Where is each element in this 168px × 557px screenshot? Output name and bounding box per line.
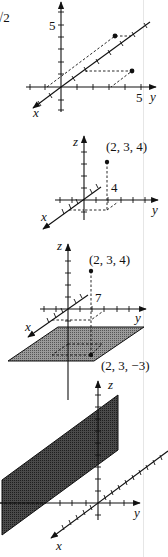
figure-2: (2, 3, 4) 4 z y x: [40, 134, 158, 229]
diagram-canvas: √2: [0, 0, 168, 557]
fig2-ticks: [60, 152, 145, 214]
fig2-z-label: z: [72, 134, 78, 149]
fig3-distance-label: 7: [95, 290, 102, 305]
fig1-point-2: [130, 69, 135, 74]
fig4-z-label: z: [107, 377, 113, 392]
fig1-y-label: y: [148, 89, 156, 104]
fig3-projection-top: [52, 312, 102, 320]
fig2-projection-vertical: [84, 162, 107, 210]
figure-1: 5 5 y x: [26, 2, 156, 120]
figure-4: z y x: [0, 377, 168, 553]
fig1-ticks: [30, 12, 147, 110]
fig3-point-label: (2, 3, 4): [89, 252, 130, 267]
sqrt-fragment-text: √2: [0, 10, 10, 25]
fig1-tick-label-5-y: 5: [136, 90, 143, 105]
fig3-x-label: x: [24, 319, 31, 334]
fig2-projection-y: [107, 202, 118, 210]
fig3-ticks: [44, 261, 129, 323]
fig2-x-label: x: [40, 209, 47, 224]
fig1-x-label: x: [32, 105, 39, 120]
fig2-y-label: y: [150, 202, 158, 217]
fig2-point-label: (2, 3, 4): [106, 139, 147, 154]
fig4-x-label: x: [55, 538, 62, 553]
fig1-projection-1: [47, 36, 131, 87]
fig3-point-lower: [89, 353, 93, 357]
fig3-projected-point-label: (2, 3, −3): [101, 358, 150, 373]
fig2-x-axis: [43, 187, 101, 229]
fig3-point-upper: [89, 269, 93, 273]
fig1-diagonal-line: [61, 22, 150, 87]
fig3-z-label: z: [56, 238, 62, 253]
fig4-y-label: y: [132, 505, 140, 520]
fig2-height-label: 4: [111, 180, 118, 195]
figure-3: (2, 3, 4) 7 (2, 3, −3) z y x: [8, 238, 150, 400]
fig3-y-label: y: [133, 310, 141, 325]
fig4-plane: [2, 395, 118, 535]
fig1-tick-label-5-vertical: 5: [49, 18, 56, 33]
fig1-point-1: [113, 34, 118, 39]
fig2-point: [105, 160, 109, 164]
